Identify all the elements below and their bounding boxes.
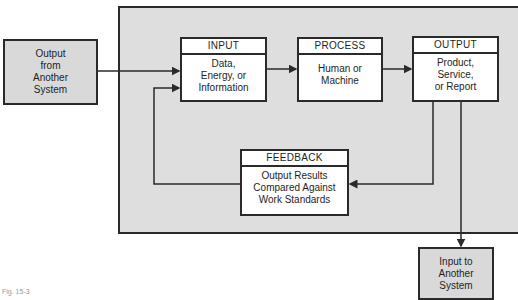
figure-caption: Fig. 15-3 (2, 288, 30, 295)
